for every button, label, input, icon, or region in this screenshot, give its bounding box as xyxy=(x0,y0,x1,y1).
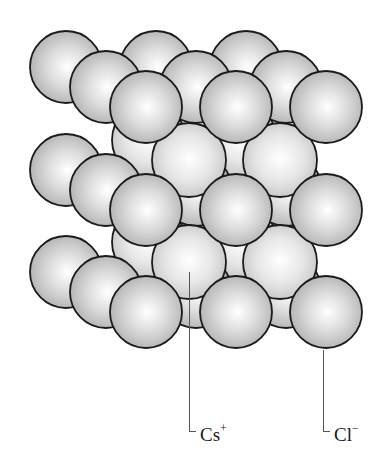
cl-element: Cl xyxy=(334,424,352,445)
cl-ion-sphere xyxy=(290,71,362,143)
cl-front-layer xyxy=(110,71,362,348)
cs-ion-label: Cs+ xyxy=(200,424,227,444)
cl-ion-sphere xyxy=(200,174,272,246)
cs-leader-line xyxy=(189,272,196,432)
cl-ion-sphere xyxy=(200,276,272,348)
cl-ion-sphere xyxy=(200,71,272,143)
cs-element: Cs xyxy=(200,424,220,445)
cs-charge: + xyxy=(220,421,227,435)
cl-ion-sphere xyxy=(110,174,182,246)
cl-charge: − xyxy=(352,421,359,435)
cl-ion-sphere xyxy=(110,71,182,143)
cl-ion-sphere xyxy=(290,174,362,246)
cl-ion-sphere xyxy=(290,276,362,348)
cl-ion-label: Cl− xyxy=(334,424,359,444)
cl-leader-line xyxy=(323,350,330,432)
cl-ion-sphere xyxy=(110,276,182,348)
